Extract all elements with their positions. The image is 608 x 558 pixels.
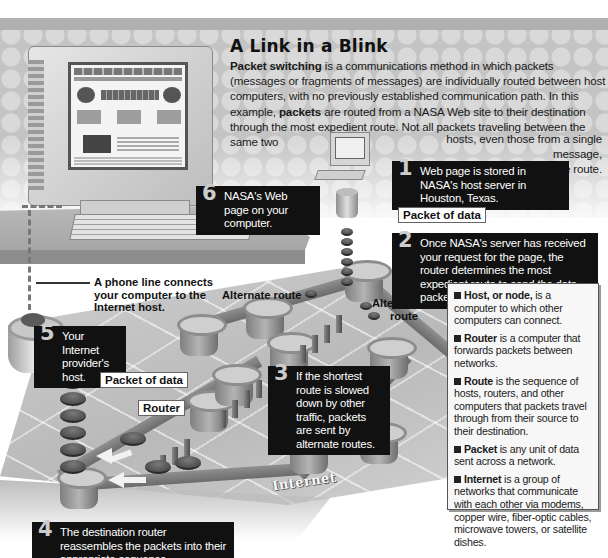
desk-edge — [0, 250, 305, 264]
data-packet — [175, 456, 201, 470]
data-packet — [145, 460, 171, 474]
glossary-term: Route — [464, 375, 493, 387]
data-packet — [60, 409, 86, 423]
data-packet — [60, 426, 86, 440]
bullet-square-icon — [454, 378, 461, 385]
shuttle-logo-icon — [101, 90, 159, 100]
phone-line-pointer — [36, 282, 90, 284]
intro-tail-line-1: hosts, even those from a single message, — [395, 131, 602, 161]
nasa-host-server — [336, 192, 358, 218]
glossary-term: Host, or node, — [464, 289, 532, 301]
step-number: 2 — [398, 234, 412, 248]
step-number: 5 — [40, 327, 54, 341]
data-packet — [60, 460, 86, 474]
data-packet — [360, 302, 372, 310]
glossary-item-host: Host, or node, is a computer to which ot… — [454, 289, 592, 327]
label-alternate-route-right-2: route — [390, 310, 418, 323]
glossary-item-router: Router is a computer that forwards packe… — [454, 332, 592, 370]
label-alternate-route-left: Alternate route — [222, 289, 302, 302]
monitor-vent-icon — [28, 60, 44, 190]
nasa-keyboard — [314, 170, 366, 180]
step-text: Web page is stored in NASA's host server… — [420, 165, 526, 204]
phone-line-text-1: A phone line connects — [94, 276, 213, 289]
label-phone-line: A phone line connects your computer to t… — [94, 276, 213, 314]
data-packet — [341, 268, 353, 276]
intro-term-packets: packets — [279, 105, 321, 118]
callout-step-6: 6 NASA's Web page on your computer. — [196, 186, 320, 235]
bullet-square-icon — [454, 446, 461, 453]
glossary-box: Host, or node, is a computer to which ot… — [447, 283, 599, 510]
callout-step-3: 3 If the shortest route is slowed down b… — [268, 366, 390, 455]
label-router: Router — [138, 400, 185, 416]
label-alternate-route-right-1: Alternate — [372, 297, 421, 310]
data-packet — [120, 432, 146, 446]
step-text: NASA's Web page on your computer. — [224, 190, 288, 229]
nasa-seal-icon — [77, 87, 95, 103]
glossary-item-packet: Packet is any unit of data sent across a… — [454, 443, 592, 468]
data-packet — [341, 238, 353, 246]
glossary-item-internet: Internet is a group of networks that com… — [454, 473, 592, 549]
label-packet-of-data-top: Packet of data — [398, 207, 486, 223]
data-packet — [341, 278, 353, 286]
nasa-logo-icon — [163, 87, 181, 103]
phone-line-text-3: Internet host. — [94, 301, 213, 314]
step-number: 3 — [274, 367, 288, 381]
callout-step-1: 1 Web page is stored in NASA's host serv… — [392, 161, 569, 210]
glossary-term: Packet — [464, 443, 497, 455]
callout-step-4: 4 The destination router reassembles the… — [32, 522, 234, 558]
phone-line-icon — [22, 205, 62, 209]
step-text: The destination router reassembles the p… — [60, 526, 226, 558]
shuttle-photo-icon — [83, 135, 111, 153]
nasa-host-computer — [330, 132, 370, 166]
phone-line-cable — [28, 210, 32, 310]
page-title: A Link in a Blink — [230, 36, 608, 56]
glossary-term: Router — [464, 332, 497, 344]
glossary-item-route: Route is the sequence of hosts, routers,… — [454, 375, 592, 438]
data-packet — [341, 248, 353, 256]
data-packet — [368, 312, 380, 320]
bullet-square-icon — [454, 476, 461, 483]
data-packet — [60, 443, 86, 457]
glossary-term: Internet — [464, 473, 501, 485]
bullet-square-icon — [454, 292, 461, 299]
router-node — [180, 322, 218, 356]
bullet-square-icon — [454, 335, 461, 342]
destination-router — [60, 475, 98, 509]
phone-line-text-2: your computer to the — [94, 289, 213, 302]
label-packet-of-data-left: Packet of data — [100, 372, 188, 388]
header-band-edge — [0, 18, 608, 30]
data-packet — [60, 392, 86, 406]
intro-term-packet-switching: Packet switching — [230, 59, 322, 72]
step-text: If the shortest route is slowed down by … — [296, 370, 375, 450]
step-number: 6 — [202, 187, 216, 201]
data-packet — [341, 258, 353, 266]
step-number: 1 — [398, 162, 412, 176]
nasa-web-page-screen — [68, 62, 188, 170]
step-number: 4 — [38, 523, 52, 537]
data-packet — [305, 290, 317, 298]
data-packet — [341, 228, 353, 236]
